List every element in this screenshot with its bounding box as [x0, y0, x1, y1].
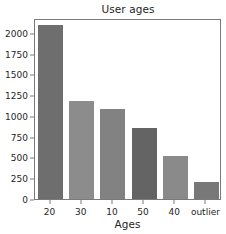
y-tick-label: 1000 [5, 112, 28, 122]
x-tick-label: 50 [137, 207, 148, 217]
x-tick-mark [80, 200, 81, 204]
bar-50 [132, 128, 157, 199]
y-tick-label: 1500 [5, 70, 28, 80]
y-tick-label: 750 [11, 133, 28, 143]
plot-area [34, 19, 221, 200]
bar-30 [69, 101, 94, 199]
y-tick-label: 1750 [5, 50, 28, 60]
x-tick-label: 40 [169, 207, 180, 217]
y-tick-label: 0 [22, 195, 28, 205]
x-tick-label: 10 [106, 207, 117, 217]
x-tick-mark [111, 200, 112, 204]
y-tick-label: 1250 [5, 91, 28, 101]
y-tick-label: 500 [11, 153, 28, 163]
x-tick-label: outlier [191, 207, 220, 217]
bar-40 [163, 156, 188, 199]
x-tick-mark [205, 200, 206, 204]
bar-20 [38, 25, 63, 199]
bar-10 [100, 109, 125, 200]
y-axis: 025050075010001250150017502000 [0, 19, 34, 200]
y-tick-label: 2000 [5, 29, 28, 39]
bar-outlier [194, 182, 219, 199]
x-tick-label: 30 [75, 207, 86, 217]
x-axis-label: Ages [34, 218, 221, 230]
x-tick-label: 20 [44, 207, 55, 217]
bar-series [35, 20, 220, 199]
x-tick-mark [143, 200, 144, 204]
x-tick-mark [174, 200, 175, 204]
y-tick-label: 250 [11, 174, 28, 184]
x-tick-mark [49, 200, 50, 204]
page-title: User ages [34, 3, 222, 15]
bar-chart-figure: User ages 025050075010001250150017502000… [0, 0, 226, 234]
